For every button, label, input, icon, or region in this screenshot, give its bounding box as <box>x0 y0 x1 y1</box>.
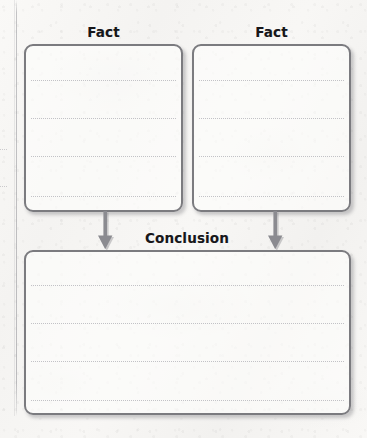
page-edge-rule-stub <box>0 149 7 151</box>
fact-2-label: Fact <box>192 24 351 40</box>
rule-line <box>31 361 344 362</box>
rule-line <box>199 196 344 197</box>
rule-line <box>31 80 176 81</box>
margin-rule <box>16 0 17 416</box>
rule-line <box>31 156 176 157</box>
rule-line <box>31 323 344 324</box>
worksheet-page: Fact Fact Conclusion <box>0 0 367 438</box>
rule-line <box>31 196 176 197</box>
fact-2-writing-area[interactable] <box>194 46 349 210</box>
conclusion-writing-area[interactable] <box>26 252 349 413</box>
page-edge-rule-stub <box>0 186 7 188</box>
rule-line <box>31 118 176 119</box>
rule-line <box>199 80 344 81</box>
arrow-down-icon <box>266 211 286 253</box>
fact-1-writing-area[interactable] <box>26 46 181 210</box>
margin-rule-secondary <box>14 0 15 416</box>
conclusion-label: Conclusion <box>120 230 254 246</box>
rule-line <box>199 118 344 119</box>
rule-line <box>31 285 344 286</box>
conclusion-box[interactable] <box>24 250 351 415</box>
rule-line <box>31 400 344 401</box>
rule-line <box>199 156 344 157</box>
fact-1-box[interactable] <box>24 44 183 212</box>
fact-1-label: Fact <box>24 24 183 40</box>
arrow-down-icon <box>96 211 116 253</box>
fact-2-box[interactable] <box>192 44 351 212</box>
